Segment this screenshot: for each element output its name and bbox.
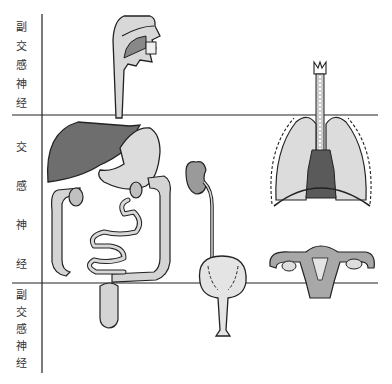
anatomy-diagram	[0, 0, 392, 384]
uterus-ovaries	[270, 246, 375, 298]
small-intestine	[89, 200, 139, 272]
esophagus-mouth	[113, 16, 160, 118]
rectum	[100, 283, 118, 328]
large-intestine	[52, 176, 171, 282]
bladder	[199, 256, 246, 336]
kidney-ureter	[186, 162, 212, 258]
